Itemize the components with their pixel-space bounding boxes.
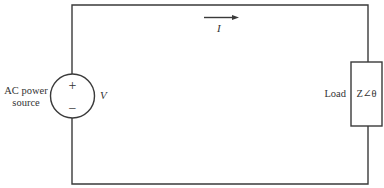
plus-sign: + [69, 78, 77, 93]
arrowhead-icon [232, 15, 239, 20]
load-label: Load [324, 88, 346, 99]
impedance-label: Z∠θ [356, 88, 376, 99]
current-label: I [216, 22, 222, 34]
minus-sign: − [69, 101, 77, 116]
source-label-line1: AC power [4, 85, 48, 96]
source-label-line2: source [12, 97, 40, 108]
voltage-label: V [100, 89, 108, 101]
bottom-wire [72, 118, 368, 184]
circuit-diagram: + − AC power source V I Load Z∠θ [0, 0, 384, 188]
top-wire [72, 5, 368, 74]
